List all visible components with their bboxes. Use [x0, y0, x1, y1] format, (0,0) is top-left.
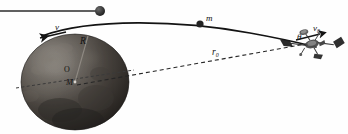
label-angle: θ	[297, 33, 301, 42]
label-planet-mass: M	[66, 78, 73, 87]
label-radius: R	[80, 37, 86, 47]
figure-canvas	[0, 0, 348, 134]
label-velocity: v	[55, 23, 59, 32]
label-center: O	[64, 66, 70, 74]
label-initial-radius: r0	[212, 48, 219, 58]
orbital-mechanics-figure: v R O M m r0 θ v0	[0, 0, 348, 134]
top-rule	[0, 6, 105, 16]
mass-marker	[196, 20, 203, 27]
top-rule-ball-marker	[95, 6, 105, 16]
label-initial-velocity-subscript: 0	[317, 28, 320, 34]
label-initial-velocity: v0	[313, 24, 320, 33]
label-initial-radius-subscript: 0	[216, 52, 219, 58]
planet-center-point	[74, 81, 77, 84]
label-orbiting-mass: m	[206, 14, 213, 23]
